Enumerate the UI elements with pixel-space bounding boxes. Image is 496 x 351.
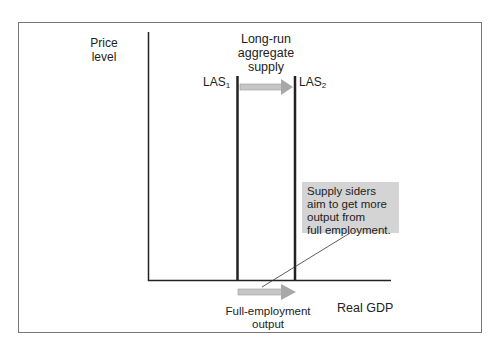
x-axis-label: Real GDP [337, 301, 393, 315]
las1-label: LAS1 [203, 75, 230, 93]
shift-arrow-top [240, 79, 293, 95]
y-axis-label: Price level [84, 36, 124, 64]
annotation-box: Supply siders aim to get more output fro… [302, 182, 399, 233]
shift-arrow-bottom [238, 284, 296, 300]
full-employment-label: Full-employment output [218, 305, 318, 331]
curve-label: Long-run aggregate supply [230, 32, 302, 74]
note-pointer [262, 233, 350, 287]
las2-label: LAS2 [299, 75, 326, 93]
